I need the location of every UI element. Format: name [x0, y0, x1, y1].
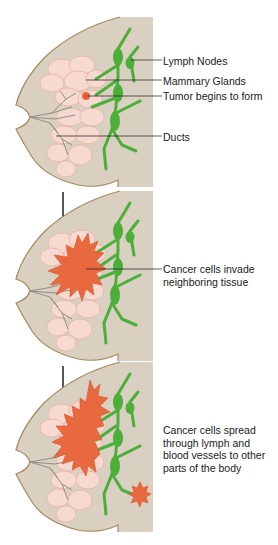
- label-tumor-begins: Tumor begins to form: [163, 90, 262, 103]
- label-cancer-invade: Cancer cells invade neighboring tissue: [163, 263, 255, 288]
- label-lymph-nodes: Lymph Nodes: [163, 55, 227, 68]
- panel-stage-1: [16, 17, 162, 187]
- panel-stage-3: [16, 362, 153, 532]
- label-mammary-glands: Mammary Glands: [163, 75, 246, 88]
- breast-cancer-progression-diagram: Lymph Nodes Mammary Glands Tumor begins …: [0, 0, 278, 545]
- label-ducts: Ducts: [163, 131, 190, 144]
- panel-stage-2: [16, 191, 162, 361]
- label-cancer-spread: Cancer cells spread through lymph and bl…: [163, 424, 265, 474]
